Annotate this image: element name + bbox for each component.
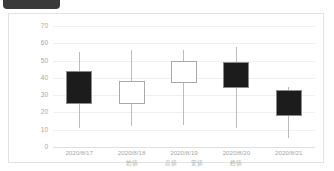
- candlestick-term-label: 安値: [191, 161, 203, 167]
- y-axis-tick-label: 10: [41, 126, 48, 133]
- candlestick[interactable]: [263, 26, 315, 147]
- candlestick-body: [223, 62, 249, 88]
- chart-plot-area: 010203040506070: [53, 26, 315, 147]
- screenshot-root: 010203040506070 2020/8/172020/8/182020/8…: [0, 0, 334, 171]
- y-axis-tick-label: 20: [41, 109, 48, 116]
- y-axis-tick-label: 60: [41, 40, 48, 47]
- y-axis-tick-label: 70: [41, 23, 48, 30]
- x-axis-tick-label: 2020/8/21: [275, 150, 303, 156]
- candlestick[interactable]: [53, 26, 105, 147]
- y-axis-tick-label: 40: [41, 75, 48, 82]
- candlestick[interactable]: [158, 26, 210, 147]
- candlestick-term-label: 終値: [230, 161, 242, 167]
- x-axis-tick-label: 2020/8/20: [223, 150, 251, 156]
- candlestick-term-label: 始値: [126, 161, 138, 167]
- x-axis-labels: 2020/8/172020/8/182020/8/192020/8/202020…: [53, 150, 315, 160]
- top-tab-button[interactable]: [3, 0, 60, 9]
- candlestick[interactable]: [105, 26, 157, 147]
- y-axis-tick-label: 0: [44, 144, 48, 151]
- candlestick-terms-legend: 始値高値安値終値: [53, 161, 315, 171]
- candlestick-body: [276, 90, 302, 116]
- candlestick-body: [119, 81, 145, 103]
- candlestick-body: [171, 61, 197, 83]
- x-axis-tick-label: 2020/8/18: [118, 150, 146, 156]
- candlestick-body: [66, 71, 92, 104]
- candlestick-term-label: 高値: [165, 161, 177, 167]
- gridline-0: [53, 147, 315, 148]
- chart-card: 010203040506070 2020/8/172020/8/182020/8…: [8, 13, 324, 163]
- x-axis-tick-label: 2020/8/19: [170, 150, 198, 156]
- candlestick[interactable]: [210, 26, 262, 147]
- y-axis-tick-label: 50: [41, 57, 48, 64]
- x-axis-tick-label: 2020/8/17: [65, 150, 93, 156]
- y-axis-tick-label: 30: [41, 92, 48, 99]
